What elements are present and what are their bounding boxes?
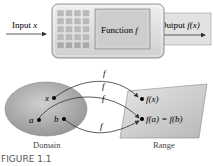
input-label: Input x [12, 20, 37, 30]
range-point-label: f(x) [146, 94, 159, 104]
keypad-key [74, 34, 81, 41]
domain-label: Domain [33, 140, 61, 150]
keypad-key [66, 26, 73, 33]
domain-point-label: a [29, 115, 34, 125]
arrow-label: f [103, 68, 107, 78]
keypad-key [66, 42, 73, 49]
function-label: Function f [101, 25, 139, 35]
keypad-key [74, 42, 81, 49]
keypad-key [57, 18, 64, 25]
keypad-key [74, 10, 81, 17]
keypad-key [66, 34, 73, 41]
figure-caption: FIGURE 1.1 [1, 154, 52, 164]
domain-point-b [62, 117, 66, 121]
keypad-key [74, 18, 81, 25]
keypad-key [83, 34, 90, 41]
keypad-key [57, 10, 64, 17]
keypad-key [83, 10, 90, 17]
domain-point-label: b [54, 114, 59, 124]
range-label: Range [153, 140, 175, 150]
arrow-label: f [102, 93, 106, 103]
domain-point-x [52, 96, 56, 100]
domain-point-a [37, 118, 41, 122]
keypad-key [66, 10, 73, 17]
keypad-key [57, 34, 64, 41]
domain-set [5, 82, 87, 136]
keypad-key [57, 26, 64, 33]
keypad-key [83, 18, 90, 25]
keypad-key [83, 26, 90, 33]
range-point-label: f(a) = f(b) [146, 114, 183, 124]
domain-point-label: x [44, 93, 49, 103]
function-diagram: Input x Output f(x) Function f f f f f x… [0, 0, 213, 166]
keypad-key [74, 26, 81, 33]
range-point-fx [140, 97, 144, 101]
range-point-fa-fb [140, 117, 144, 121]
keypad-key [57, 42, 64, 49]
keypad-key [66, 18, 73, 25]
arrow-label: f [100, 121, 104, 131]
output-label: Output f(x) [160, 20, 200, 30]
arrow-label: f [102, 81, 106, 91]
keypad-key [83, 42, 90, 49]
